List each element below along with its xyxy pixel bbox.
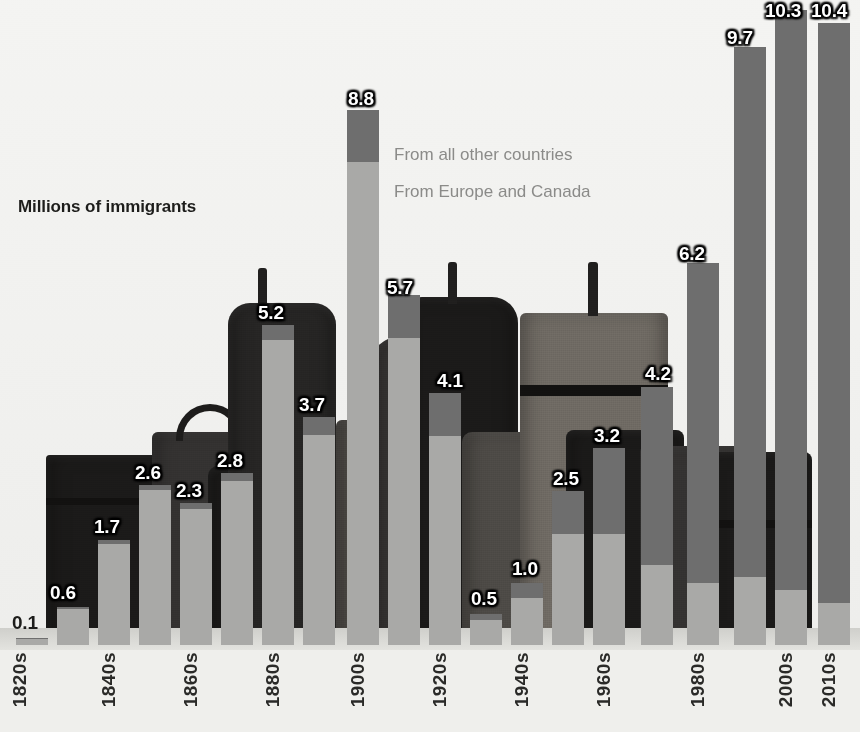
bar-1870s-other — [221, 473, 253, 481]
bar-2010s-other — [818, 23, 850, 603]
x-tick-1860s: 1860s — [180, 652, 202, 707]
bar-1890s-other — [303, 417, 335, 435]
bar-1880s-other — [262, 325, 294, 340]
x-tick-1920s: 1920s — [429, 652, 451, 707]
bar-1880s-value: 5.2 — [258, 302, 284, 324]
bar-1950s-europe — [552, 534, 584, 645]
bar-1980s-other — [687, 263, 719, 583]
bar-1830s[interactable] — [57, 607, 89, 645]
x-axis: 1820s 1840s 1860s 1880s 1900s 1920s 1940… — [0, 650, 860, 732]
bar-2000s[interactable] — [775, 10, 807, 645]
bar-2010s[interactable] — [818, 23, 850, 645]
x-tick-1940s: 1940s — [511, 652, 533, 707]
x-tick-2010s: 2010s — [818, 652, 840, 707]
bar-1820s-europe — [16, 639, 48, 645]
bar-1930s-value: 0.5 — [471, 588, 497, 610]
bar-1920s-value: 4.1 — [437, 370, 463, 392]
x-tick-1880s: 1880s — [262, 652, 284, 707]
bar-1990s-europe — [734, 577, 766, 645]
bar-1940s[interactable] — [511, 583, 543, 645]
bar-1840s[interactable] — [98, 540, 130, 645]
bar-2000s-europe — [775, 590, 807, 645]
bar-1900s-europe — [347, 162, 379, 645]
bar-1850s-europe — [139, 490, 171, 645]
x-tick-1840s: 1840s — [98, 652, 120, 707]
bar-1890s-value: 3.7 — [299, 394, 325, 416]
bar-1820s-value: 0.1 — [12, 612, 38, 634]
bar-1990s[interactable] — [734, 47, 766, 645]
bar-1880s-europe — [262, 340, 294, 645]
bar-1890s[interactable] — [303, 417, 335, 645]
bar-1850s-value: 2.6 — [135, 462, 161, 484]
bar-1880s[interactable] — [262, 325, 294, 645]
bar-1870s[interactable] — [221, 473, 253, 645]
bar-1960s-europe — [593, 534, 625, 645]
bar-1970s-other — [641, 387, 673, 565]
bar-1840s-europe — [98, 544, 130, 645]
bar-1970s-europe — [641, 565, 673, 645]
bar-1940s-other — [511, 583, 543, 598]
bar-1990s-other — [734, 47, 766, 577]
bar-1830s-europe — [57, 609, 89, 645]
bar-1980s-value: 6.2 — [679, 243, 705, 265]
bar-1900s[interactable] — [347, 110, 379, 645]
bar-1830s-value: 0.6 — [50, 582, 76, 604]
bar-1950s[interactable] — [552, 491, 584, 645]
legend-item-other-countries: From all other countries — [394, 145, 573, 165]
x-tick-2000s: 2000s — [775, 652, 797, 707]
x-tick-1960s: 1960s — [593, 652, 615, 707]
infographic-root: 0.1 0.6 1.7 2.6 2.3 2.8 — [0, 0, 860, 732]
x-tick-1980s: 1980s — [687, 652, 709, 707]
bar-1860s-europe — [180, 509, 212, 645]
bar-1860s[interactable] — [180, 503, 212, 645]
bar-1950s-value: 2.5 — [553, 468, 579, 490]
x-tick-1820s: 1820s — [9, 652, 31, 707]
bar-chart: 0.1 0.6 1.7 2.6 2.3 2.8 — [0, 0, 860, 650]
bar-1990s-value: 9.7 — [727, 27, 753, 49]
bar-1950s-other — [552, 491, 584, 534]
bar-1860s-value: 2.3 — [176, 480, 202, 502]
bar-1900s-other — [347, 110, 379, 162]
legend-item-europe-canada: From Europe and Canada — [394, 182, 591, 202]
bar-1920s-europe — [429, 436, 461, 645]
bar-1940s-value: 1.0 — [512, 558, 538, 580]
bar-1890s-europe — [303, 435, 335, 645]
bar-1900s-value: 8.8 — [348, 88, 374, 110]
bar-1910s-other — [388, 295, 420, 338]
bar-1870s-value: 2.8 — [217, 450, 243, 472]
bar-1910s[interactable] — [388, 295, 420, 645]
x-tick-1900s: 1900s — [347, 652, 369, 707]
bar-1930s-europe — [470, 620, 502, 645]
bar-1870s-europe — [221, 481, 253, 645]
bar-1840s-value: 1.7 — [94, 516, 120, 538]
bar-1980s-europe — [687, 583, 719, 645]
bar-1970s-value: 4.2 — [645, 363, 671, 385]
bar-1960s-other — [593, 448, 625, 534]
bar-2010s-value: 10.4 — [811, 0, 847, 22]
bar-1960s-value: 3.2 — [594, 425, 620, 447]
bar-1920s-other — [429, 393, 461, 436]
bar-1920s[interactable] — [429, 393, 461, 645]
bar-2010s-europe — [818, 603, 850, 645]
bar-2000s-other — [775, 10, 807, 590]
bar-1850s[interactable] — [139, 485, 171, 645]
bar-1910s-value: 5.7 — [387, 277, 413, 299]
bar-2000s-value: 10.3 — [765, 0, 801, 22]
bar-1960s[interactable] — [593, 448, 625, 645]
bar-1910s-europe — [388, 338, 420, 645]
bar-1930s[interactable] — [470, 614, 502, 645]
bar-1940s-europe — [511, 598, 543, 645]
bar-1970s[interactable] — [641, 387, 673, 645]
bar-1980s[interactable] — [687, 263, 719, 645]
bar-1820s[interactable] — [16, 638, 48, 645]
chart-title: Millions of immigrants — [18, 197, 196, 217]
